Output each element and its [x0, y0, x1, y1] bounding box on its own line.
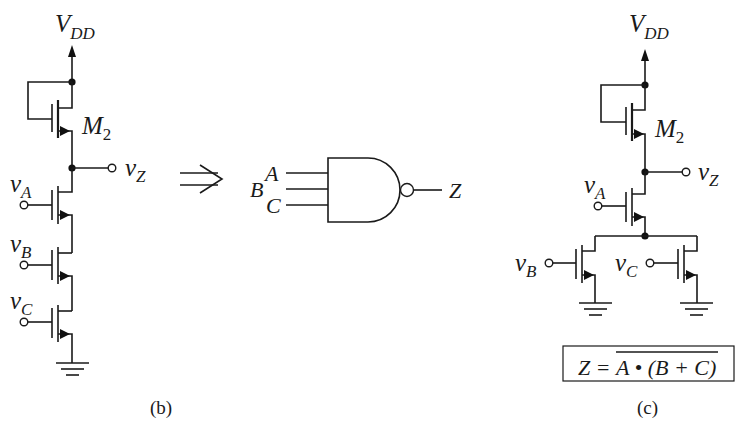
transistor-b-b [27, 247, 72, 311]
nand-body [328, 158, 400, 222]
caption-c: (c) [637, 397, 658, 419]
input-terminal-a-b[interactable] [20, 201, 28, 209]
transistor-m2-c [601, 85, 645, 172]
input-terminal-c-b[interactable] [20, 318, 28, 326]
vb-label-c: vB [515, 249, 537, 281]
gate-input-c-label: C [266, 193, 281, 218]
vb-label-b: vB [10, 230, 32, 262]
nand-gate-symbol [286, 158, 442, 222]
input-terminal-b-b[interactable] [20, 261, 28, 269]
vz-label-b: vZ [125, 154, 146, 186]
gate-input-a-label: A [263, 161, 279, 186]
vdd-label-c: VDD [629, 10, 670, 43]
vz-label-c: vZ [698, 158, 719, 190]
vdd-label-b: VDD [55, 10, 96, 43]
vc-label-b: vC [10, 287, 33, 319]
transistor-a-b [27, 168, 72, 253]
transistor-m2-b [28, 82, 72, 168]
gate-input-b-label: B [250, 177, 263, 202]
ground-icon-b [56, 363, 89, 375]
transistor-c-c [653, 236, 697, 303]
output-terminal-b[interactable] [108, 164, 116, 172]
circuit-figure: VDD M2 vZ [0, 0, 744, 430]
input-terminal-c-c[interactable] [646, 259, 654, 267]
vdd-arrow-icon-b [68, 45, 76, 57]
va-label-b: vA [10, 170, 32, 202]
m2-label-b: M2 [81, 112, 111, 144]
boolean-expression-box: Z = A • (B + C) [563, 346, 734, 381]
ground-icon-c-left [579, 303, 612, 315]
equivalence-arrow-icon [180, 165, 222, 193]
panel-b-circuit: VDD M2 vZ [10, 10, 146, 375]
transistor-b-c [552, 236, 595, 303]
input-terminal-b-c[interactable] [545, 259, 553, 267]
gate-output-z-label: Z [449, 178, 462, 203]
transistor-a-c [601, 172, 645, 236]
vdd-arrow-icon-c [641, 49, 649, 61]
vc-label-c: vC [615, 249, 638, 281]
output-terminal-c[interactable] [682, 168, 690, 176]
m2-label-c: M2 [654, 115, 684, 147]
ground-icon-c-right [680, 303, 713, 315]
expression-rhs: A • (B + C) [614, 355, 716, 380]
inversion-bubble [401, 184, 414, 197]
transistor-c-b [27, 305, 72, 363]
expression-lhs: Z [578, 355, 591, 380]
caption-b: (b) [150, 397, 172, 419]
va-label-c: vA [584, 171, 606, 203]
input-terminal-a-c[interactable] [594, 202, 602, 210]
panel-c-circuit: VDD M2 vZ vA [515, 10, 719, 315]
expression-equals: = [597, 355, 609, 380]
